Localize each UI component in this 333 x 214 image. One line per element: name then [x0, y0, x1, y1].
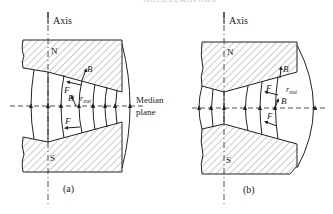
- axis-label: Axis: [53, 15, 72, 26]
- north-label: N: [51, 46, 58, 56]
- south-pole-piece: [201, 124, 297, 174]
- north-pole-piece: [22, 40, 122, 92]
- r-out-label: rout: [80, 94, 91, 104]
- F-top-label: F: [265, 83, 272, 93]
- south-pole-piece: [22, 122, 122, 172]
- axis-label: Axis: [229, 15, 248, 26]
- r-out-label: rout: [286, 85, 297, 95]
- panel-a: Axis N S Median plane: [10, 12, 164, 206]
- panel-b: Axis N S B F B F rout: [192, 12, 328, 206]
- B-mid-label: B: [68, 93, 74, 103]
- F-bottom-label: F: [64, 116, 71, 126]
- F-bottom-label: F: [266, 111, 273, 121]
- plane-label: plane: [136, 107, 156, 117]
- median-label: Median: [136, 95, 164, 105]
- caption-b: (b): [243, 184, 255, 196]
- south-label: S: [226, 155, 231, 165]
- B-mid-label: B: [281, 96, 287, 106]
- B-top-label: B: [87, 64, 93, 74]
- field-arrows: [197, 105, 317, 110]
- north-label: N: [227, 47, 234, 57]
- magnet-field-diagram: Axis N S Median plane: [0, 0, 333, 214]
- field-arrows: [29, 103, 132, 108]
- caption-a: (a): [63, 183, 74, 195]
- south-label: S: [50, 153, 55, 163]
- B-top-label: B: [283, 64, 289, 74]
